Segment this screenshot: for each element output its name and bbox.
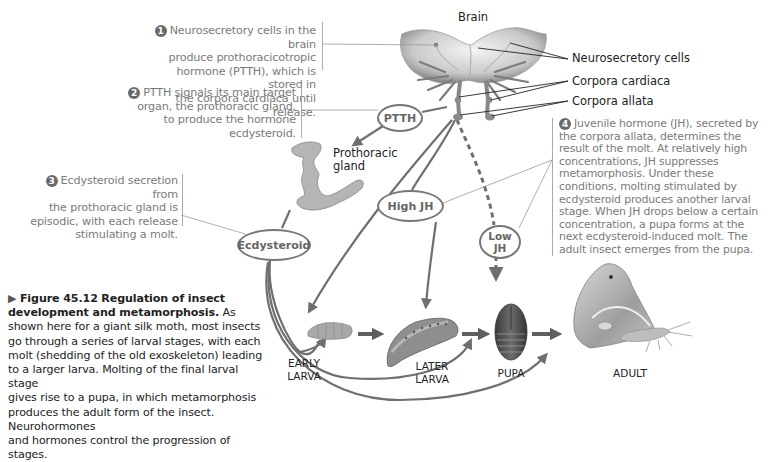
- ptth-node: PTTH: [377, 104, 423, 132]
- step-1-badge: 1: [155, 25, 167, 37]
- annotation-2-bar: [301, 86, 302, 138]
- figure-caption: ▶ Figure 45.12 Regulation of insect deve…: [8, 292, 270, 462]
- corpora-allata-label: Corpora allata: [572, 94, 654, 108]
- annotation-1-bar: [322, 22, 323, 70]
- adult-moth-illustration: [574, 264, 692, 352]
- caption-line-7: and hormones control the progression of …: [8, 434, 270, 462]
- caption-line-3: molt (shedding of the old exoskeleton) l…: [8, 349, 270, 363]
- annotation-3: 3Ecdysteroid secretion from the prothora…: [20, 174, 178, 242]
- ecdysteroid-label: Ecdysteroid: [238, 239, 311, 252]
- figure-number: Figure 45.12: [20, 292, 98, 305]
- corpora-cardiaca-label: Corpora cardiaca: [572, 74, 670, 88]
- stage-adult-label: ADULT: [607, 366, 653, 380]
- annotation-4: 4Juvenile hormone (JH), secreted by the …: [559, 118, 774, 257]
- pupa-illustration: [495, 304, 527, 360]
- annotation-4-bar: [552, 118, 553, 256]
- step-4-badge: 4: [559, 118, 571, 130]
- caption-line-2: go through a series of larval stages, wi…: [8, 335, 270, 349]
- stage-early-larva-label: EARLY LARVA: [282, 357, 326, 383]
- neurosecretory-cells-label: Neurosecretory cells: [572, 51, 690, 65]
- step-2-badge: 2: [128, 87, 140, 99]
- annotation-2: 2PTTH signals its main target organ, the…: [120, 86, 296, 140]
- caption-line-1: shown here for a giant silk moth, most i…: [8, 320, 270, 334]
- step-3-badge: 3: [46, 175, 58, 187]
- ptth-label: PTTH: [384, 112, 417, 125]
- brain-label: Brain: [458, 10, 488, 24]
- caption-line-0: As: [223, 306, 236, 319]
- prothoracic-gland-label: Prothoracic gland: [333, 147, 403, 173]
- ecdysteroid-node: Ecdysteroid: [237, 229, 311, 261]
- low-jh-label: Low JH: [486, 230, 514, 254]
- stage-later-larva-label: LATER LARVA: [410, 360, 454, 386]
- annotation-3-bar: [182, 174, 183, 226]
- high-jh-label: High JH: [388, 200, 434, 213]
- stage-pupa-label: PUPA: [491, 366, 531, 380]
- caption-line-4: to a larger larva. Molting of the final …: [8, 363, 270, 391]
- caption-marker-icon: ▶: [8, 292, 16, 305]
- low-jh-node: Low JH: [479, 225, 521, 259]
- caption-line-5: gives rise to a pupa, in which metamorph…: [8, 391, 270, 405]
- caption-line-6: produces the adult form of the insect. N…: [8, 406, 270, 434]
- early-larva-illustration: [308, 322, 352, 339]
- high-jh-node: High JH: [377, 190, 444, 222]
